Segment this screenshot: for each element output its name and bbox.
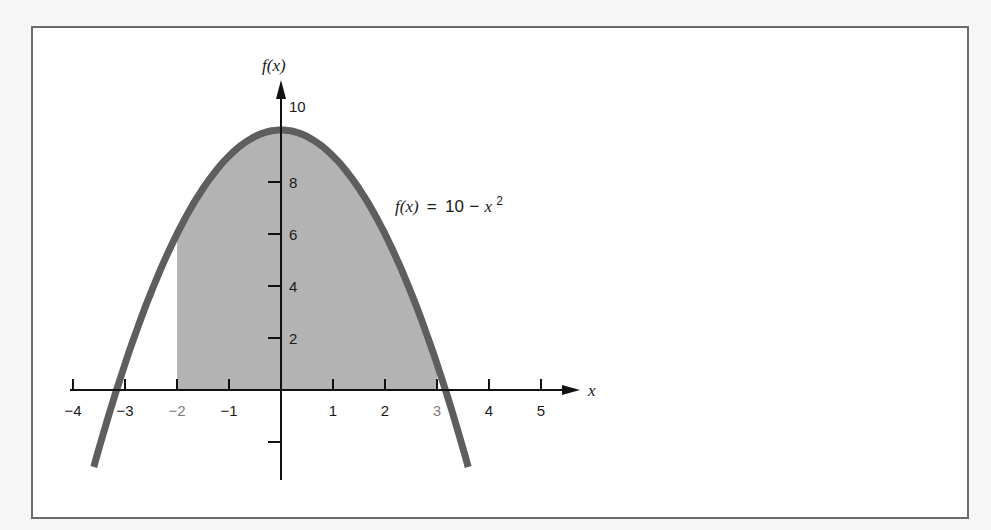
- x-axis-arrow-icon: [562, 385, 580, 395]
- x-tick-label: 2: [381, 402, 389, 419]
- area-under-curve-figure: −4−3−2−112345 x 246810 f(x) f(x) = 10 − …: [0, 0, 991, 530]
- y-tick-label: 10: [289, 98, 306, 115]
- y-tick-label: 4: [289, 278, 297, 295]
- x-axis-label: x: [587, 381, 596, 400]
- x-tick-label: 4: [485, 402, 493, 419]
- x-tick-label: −4: [64, 402, 81, 419]
- function-label: f(x) = 10 − x 2: [395, 194, 503, 216]
- x-tick-label: 1: [329, 402, 337, 419]
- y-tick-label: 6: [289, 226, 297, 243]
- x-tick-label: −1: [220, 402, 237, 419]
- x-tick-label: 5: [537, 402, 545, 419]
- y-tick-label: 2: [289, 330, 297, 347]
- y-axis-arrow-icon: [276, 80, 286, 99]
- y-axis-label: f(x): [262, 56, 286, 75]
- y-tick-label: 8: [289, 174, 297, 191]
- x-tick-label: −3: [116, 402, 133, 419]
- x-tick-label: −2: [168, 402, 185, 419]
- x-tick-label: 3: [433, 402, 441, 419]
